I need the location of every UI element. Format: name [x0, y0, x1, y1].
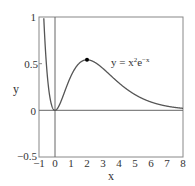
- x-tick-label: 8: [180, 157, 186, 169]
- y-axis-label: y: [13, 82, 19, 96]
- maximum-point: [85, 58, 89, 62]
- chart: y = x2e−x 1 0.5 0 −0.5 −1 0 1 2 3 4 5 6 …: [0, 0, 195, 186]
- x-ticks: −1 0 1 2 3 4 5 6 7 8: [33, 157, 186, 169]
- y-tick-label: 0: [31, 105, 37, 117]
- x-tick-label: 2: [84, 157, 90, 169]
- x-tick-label: −1: [33, 157, 45, 169]
- x-tick-label: 7: [164, 157, 170, 169]
- plot-frame: [39, 17, 183, 157]
- x-tick-label: 3: [100, 157, 106, 169]
- x-tick-label: 1: [68, 157, 74, 169]
- x-tick-label: 4: [116, 157, 122, 169]
- y-tick-label: 1: [31, 11, 37, 23]
- y-ticks: 1 0.5 0 −0.5: [17, 11, 42, 162]
- x-tick-label: 6: [148, 157, 154, 169]
- curve-annotation: y = x2e−x: [111, 56, 150, 68]
- x-tick-label: 5: [132, 157, 138, 169]
- y-tick-label: 0.5: [24, 58, 38, 70]
- x-tick-label: 0: [52, 157, 58, 169]
- x-axis-label: x: [108, 169, 114, 183]
